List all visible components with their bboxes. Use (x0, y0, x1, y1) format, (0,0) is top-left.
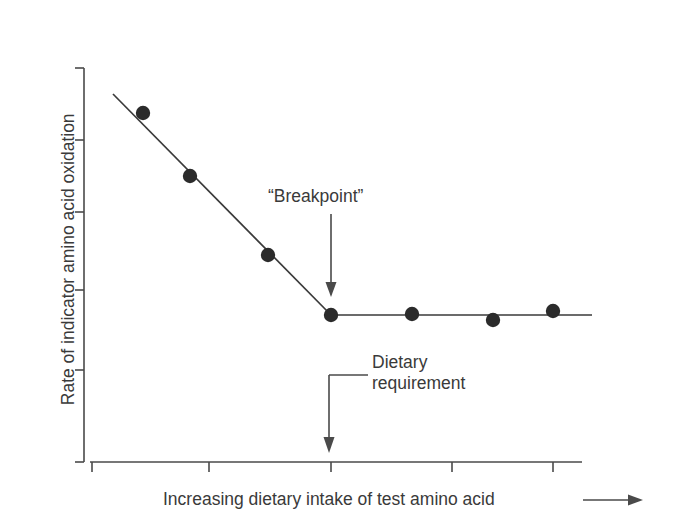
series-data-markers (136, 106, 560, 327)
x-axis-ticks (92, 462, 553, 472)
dietary-requirement-annotation-label: Dietaryrequirement (372, 352, 465, 393)
data-point (136, 106, 150, 120)
x-axis-title: Increasing dietary intake of test amino … (163, 489, 495, 510)
dietary-requirement-line2: requirement (372, 373, 465, 394)
data-point (261, 248, 275, 262)
dietary-requirement-arrow-icon (324, 375, 369, 453)
dietary-requirement-line1: Dietary (372, 352, 427, 372)
data-point (405, 307, 419, 321)
data-point (324, 308, 338, 322)
y-axis-title: Rate of indicator amino acid oxidation (58, 79, 79, 439)
data-point (183, 169, 197, 183)
data-point (486, 313, 500, 327)
chart-figure: Rate of indicator amino acid oxidation I… (0, 0, 686, 521)
breakpoint-annotation-label: “Breakpoint” (268, 186, 363, 207)
data-point (546, 304, 560, 318)
breakpoint-arrow-icon (326, 214, 337, 297)
chart-plot-area (0, 0, 686, 521)
x-axis-arrow-right-icon (583, 495, 643, 506)
